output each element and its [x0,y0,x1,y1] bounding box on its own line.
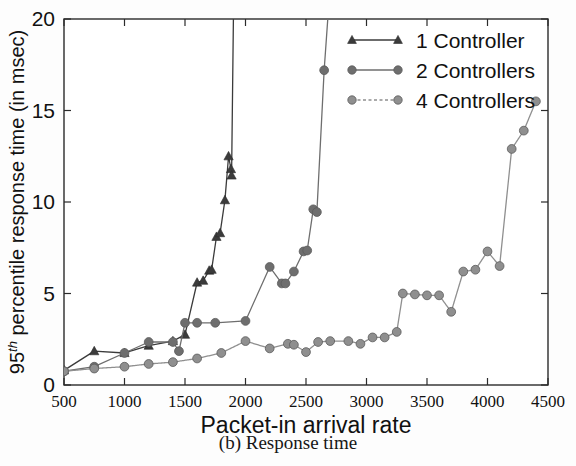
data-point [320,66,329,75]
legend-label: 4 Controllers [416,89,535,112]
data-point [144,338,153,347]
x-tick-label: 1000 [108,392,142,411]
x-tick-label: 1500 [168,392,202,411]
data-point [312,208,321,217]
data-point [241,337,250,346]
data-point [193,318,202,327]
y-tick-label: 5 [43,282,55,305]
data-point [290,340,299,349]
data-point [144,360,153,369]
data-point [394,66,402,74]
y-axis-label: 95th percentile response time (in msec) [5,30,28,374]
data-point [348,66,356,74]
data-point [217,349,226,358]
data-point [303,246,312,255]
data-point [495,262,504,271]
data-point [211,318,220,327]
data-point [120,349,129,358]
data-point [265,263,274,272]
data-point [394,96,402,104]
data-point [120,362,129,371]
data-point [435,291,444,300]
y-tick-label: 10 [32,190,55,213]
data-point [175,347,184,356]
data-point [411,290,420,299]
data-point [519,126,528,135]
data-point [169,338,178,347]
response-time-chart: 5001000150020002500300035004000450005101… [0,0,576,466]
data-point [348,96,356,104]
figure-container: 5001000150020002500300035004000450005101… [0,0,576,466]
legend-label: 1 Controller [416,29,525,52]
data-point [459,267,468,276]
x-tick-label: 3000 [350,392,384,411]
data-point [356,339,365,348]
data-point [380,333,389,342]
data-point [314,338,323,347]
data-point [265,344,274,353]
legend-label: 2 Controllers [416,59,535,82]
data-point [507,145,516,154]
data-point [326,337,335,346]
data-point [302,348,311,357]
svg-text:95th percentile response time: 95th percentile response time (in msec) [5,30,28,374]
x-tick-label: 2500 [289,392,323,411]
x-tick-label: 3500 [410,392,444,411]
y-tick-label: 15 [32,99,55,122]
x-tick-label: 4000 [471,392,505,411]
x-tick-label: 4500 [531,392,565,411]
data-point [181,318,190,327]
data-point [471,265,480,274]
data-point [169,358,178,367]
data-point [447,307,456,316]
x-tick-label: 2000 [229,392,263,411]
data-point [90,364,99,373]
data-point [241,317,250,326]
figure-caption: (b) Response time [0,432,576,454]
data-point [398,289,407,298]
data-point [483,247,492,256]
data-point [290,267,299,276]
data-point [392,328,401,337]
data-point [368,333,377,342]
data-point [60,367,69,376]
x-tick-label: 500 [51,392,77,411]
data-point [344,337,353,346]
y-tick-label: 20 [32,7,55,30]
data-point [281,279,290,288]
y-tick-label: 0 [43,373,55,396]
data-point [193,354,202,363]
data-point [423,291,432,300]
